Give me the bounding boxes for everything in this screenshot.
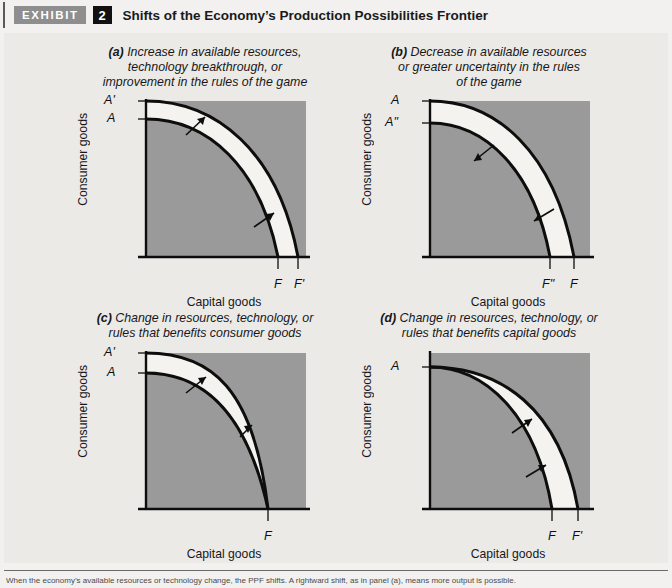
panel-a-title: (a) Increase in available resources, tec… <box>60 45 350 91</box>
panel-b-title: (b) Decrease in available resources or g… <box>344 45 634 91</box>
panel-a-letter: (a) <box>109 45 124 59</box>
panel-b-x-axis-label: Capital goods <box>422 295 594 309</box>
panel-d-svg <box>422 351 594 521</box>
panel-d-title-line-1: Change in resources, technology, or <box>400 311 598 325</box>
panel-a-label-a: A <box>107 111 115 125</box>
panel-d-y-axis-label: Consumer goods <box>360 365 374 458</box>
panel-b-y-axis-label: Consumer goods <box>360 113 374 206</box>
panel-d-x-axis-label: Capital goods <box>422 547 594 561</box>
exhibit-number-badge: 2 <box>93 6 112 24</box>
panel-c-x-axis-label: Capital goods <box>138 547 310 561</box>
panel-c-letter: (c) <box>97 311 112 325</box>
panel-b-label-f-double: F" <box>542 277 554 291</box>
panel-b-label-f: F <box>570 277 578 291</box>
exhibit-tag: EXHIBIT <box>14 6 86 24</box>
panel-a-plot: A' A F F' <box>138 99 310 269</box>
panel-d-label-f-prime: F' <box>572 529 582 543</box>
panel-a-title-line-2: technology breakthrough, or <box>128 60 282 74</box>
panel-d-title: (d) Change in resources, technology, or … <box>344 311 634 341</box>
panel-b-label-a-double: A" <box>385 115 398 129</box>
page-title: Shifts of the Economy’s Production Possi… <box>123 8 489 23</box>
panel-b-label-a: A <box>391 93 399 107</box>
header-left-rule <box>3 2 5 28</box>
panel-d: (d) Change in resources, technology, or … <box>344 311 634 561</box>
panel-c-plot: A' A F <box>138 351 310 521</box>
panel-c-svg <box>138 351 310 521</box>
panel-c-label-a: A <box>107 365 115 379</box>
panel-a-label-f: F <box>274 277 282 291</box>
panel-a-label-a-prime: A' <box>104 93 115 107</box>
figure-body: (a) Increase in available resources, tec… <box>4 33 668 563</box>
panel-d-label-f: F <box>548 529 556 543</box>
exhibit-header: EXHIBIT 2 Shifts of the Economy’s Produc… <box>0 0 672 30</box>
panel-d-plot: A F F' <box>422 351 594 521</box>
panel-a-x-axis-label: Capital goods <box>138 295 310 309</box>
panel-d-label-a: A <box>391 359 399 373</box>
panel-c-title-line-1: Change in resources, technology, or <box>115 311 313 325</box>
panel-c-label-f: F <box>264 529 272 543</box>
panel-b: (b) Decrease in available resources or g… <box>344 45 634 303</box>
panel-c: (c) Change in resources, technology, or … <box>60 311 350 561</box>
panel-b-title-line-3: of the game <box>456 75 521 89</box>
panel-a-label-f-prime: F' <box>294 277 304 291</box>
panel-b-svg <box>422 99 594 269</box>
panel-c-label-a-prime: A' <box>104 345 115 359</box>
panel-a-svg <box>138 99 310 269</box>
panel-b-plot: A A" F" F <box>422 99 594 269</box>
panel-b-title-line-2: or greater uncertainty in the rules <box>398 60 580 74</box>
panel-a-y-axis-label: Consumer goods <box>76 113 90 206</box>
footer-rule <box>4 570 668 571</box>
panel-c-title: (c) Change in resources, technology, or … <box>60 311 350 341</box>
panel-a-title-line-3: improvement in the rules of the game <box>103 75 308 89</box>
panel-b-letter: (b) <box>391 45 407 59</box>
panel-b-title-line-1: Decrease in available resources <box>410 45 586 59</box>
panel-a: (a) Increase in available resources, tec… <box>60 45 350 303</box>
panel-d-letter: (d) <box>380 311 396 325</box>
panel-c-title-line-2: rules that benefits consumer goods <box>109 326 302 340</box>
panel-a-title-line-1: Increase in available resources, <box>127 45 301 59</box>
panel-c-y-axis-label: Consumer goods <box>76 365 90 458</box>
footer-caption: When the economy’s available resources o… <box>6 576 666 587</box>
panel-d-title-line-2: rules that benefits capital goods <box>402 326 576 340</box>
